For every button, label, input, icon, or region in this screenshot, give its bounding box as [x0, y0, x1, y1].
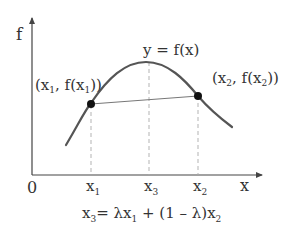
chord-line — [91, 96, 198, 104]
point-x1-label: (x1, f(x1)) — [35, 76, 102, 95]
origin-label: 0 — [27, 178, 37, 197]
x-axis-label: x — [240, 176, 249, 195]
tick-label-x1: x1 — [86, 177, 100, 197]
y-axis-label: f — [16, 24, 24, 44]
convex-combination-formula: x3= λx1 + (1 – λ)x2 — [82, 204, 221, 224]
concavity-diagram: f x 0 y = f(x) (x1, f(x1)) (x2, f(x2)) x… — [0, 0, 287, 239]
tick-label-x2: x2 — [193, 177, 207, 197]
point-x2-label: (x2, f(x2)) — [212, 69, 279, 88]
tick-label-x3: x3 — [144, 177, 158, 197]
point-x2 — [194, 92, 202, 100]
point-x1 — [87, 100, 95, 108]
curve-label: y = f(x) — [142, 41, 199, 59]
